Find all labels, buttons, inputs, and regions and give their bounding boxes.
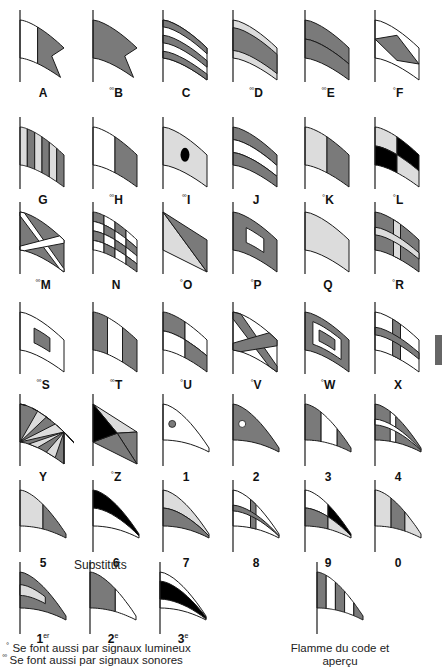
- flag-3-icon: [297, 392, 359, 472]
- flag-X-icon: [367, 300, 429, 380]
- signal-marker: °: [180, 278, 182, 287]
- code-pennant-caption: Flamme du code et aperçu: [270, 642, 410, 668]
- flag-P-icon: [225, 200, 287, 280]
- flag-label: Q: [297, 278, 359, 292]
- flag-F: °F: [367, 8, 429, 88]
- flag-1-icon: [155, 392, 217, 472]
- flag-sub1-icon: [12, 560, 74, 640]
- flag-E: °°E: [297, 8, 359, 88]
- flag-J-icon: [225, 115, 287, 195]
- flag-8: 8: [225, 478, 287, 558]
- flag-label: °F: [367, 86, 429, 100]
- legend-sonores-text: Se font aussi par signaux sonores: [10, 654, 183, 666]
- flag-label: °°S: [12, 378, 74, 392]
- flag-2-icon: [225, 392, 287, 472]
- flag-B: °°B: [85, 8, 147, 88]
- flag-label: °O: [155, 278, 217, 292]
- flag-X: X: [367, 300, 429, 380]
- flag-letter: B: [114, 86, 123, 100]
- flag-4: 4: [367, 392, 429, 472]
- flag-label: C: [155, 86, 217, 100]
- flag-V: °V: [225, 300, 287, 380]
- flag-L: °L: [367, 115, 429, 195]
- flag-letter: 8: [253, 556, 260, 570]
- flag-label: 8: [225, 556, 287, 570]
- flag-label: °P: [225, 278, 287, 292]
- flag-T-icon: [85, 300, 147, 380]
- flag-G-icon: [12, 115, 74, 195]
- flag-letter: E: [327, 86, 335, 100]
- ordinal-suffix: e: [114, 632, 118, 639]
- flag-P: °P: [225, 200, 287, 280]
- flag-2: 2: [225, 392, 287, 472]
- flag-5: 5: [12, 478, 74, 558]
- signal-marker: °: [321, 378, 323, 387]
- flag-H: °°H: [85, 115, 147, 195]
- flag-L-icon: [367, 115, 429, 195]
- signal-marker: °: [250, 378, 252, 387]
- flag-letter: D: [254, 86, 263, 100]
- flag-N-icon: [85, 200, 147, 280]
- flag-M-icon: [12, 200, 74, 280]
- flag-A-icon: [12, 8, 74, 88]
- flag-C: C: [155, 8, 217, 88]
- flag-letter: 0: [395, 556, 402, 570]
- flag-Q-icon: [297, 200, 359, 280]
- flag-sub2-icon: [82, 560, 144, 640]
- flag-N: N: [85, 200, 147, 280]
- flag-sub1: 1er: [12, 560, 74, 640]
- side-tab-marker: [435, 335, 442, 365]
- substituts-title: Substituts: [74, 558, 127, 572]
- flag-letter: N: [112, 278, 121, 292]
- flag-letter: W: [324, 378, 335, 392]
- flag-7: 7: [155, 478, 217, 558]
- signal-marker: °°: [35, 278, 39, 287]
- flag-letter: A: [39, 86, 48, 100]
- flag-D-icon: [225, 8, 287, 88]
- flag-sub3: 3e: [152, 560, 214, 640]
- flag-1: 1: [155, 392, 217, 472]
- legend-sonores: °° Se font aussi par signaux sonores: [2, 653, 183, 666]
- flag-letter: R: [395, 278, 404, 292]
- signal-marker: °°: [110, 378, 114, 387]
- legend-lumineux-marker: °: [6, 641, 9, 650]
- flag-9-icon: [297, 478, 359, 558]
- flag-3: 3: [297, 392, 359, 472]
- flag-sub3-icon: [152, 560, 214, 640]
- flag-K-icon: [297, 115, 359, 195]
- flag-F-icon: [367, 8, 429, 88]
- ordinal-suffix: er: [43, 632, 49, 639]
- code-pennant-caption-line2: aperçu: [270, 655, 410, 668]
- flag-I: °°I: [155, 115, 217, 195]
- flag-U: °U: [155, 300, 217, 380]
- flag-W: °W: [297, 300, 359, 380]
- ordinal-suffix: e: [184, 632, 188, 639]
- signal-marker: °: [392, 278, 394, 287]
- flag-U-icon: [155, 300, 217, 380]
- flag-0: 0: [367, 478, 429, 558]
- signal-marker: °°: [321, 86, 325, 95]
- signal-marker: °°: [249, 86, 253, 95]
- code-pennant-caption-line1: Flamme du code et: [270, 642, 410, 655]
- flag-letter: U: [183, 378, 192, 392]
- flag-B-icon: [85, 8, 147, 88]
- flag-code: [300, 560, 380, 640]
- flag-letter: V: [254, 378, 262, 392]
- flag-O: °O: [155, 200, 217, 280]
- flag-letter: X: [394, 378, 402, 392]
- flag-6-icon: [85, 478, 147, 558]
- flag-M: °°M: [12, 200, 74, 280]
- flag-Z: °Z: [85, 392, 147, 472]
- flag-letter: C: [182, 86, 191, 100]
- flag-letter: T: [115, 378, 122, 392]
- flag-Y-icon: [12, 392, 74, 472]
- flag-7-icon: [155, 478, 217, 558]
- flag-Y: Y: [12, 392, 74, 472]
- flag-label: °R: [367, 278, 429, 292]
- flag-label: °U: [155, 378, 217, 392]
- flag-K: °K: [297, 115, 359, 195]
- flag-label: °°D: [225, 86, 287, 100]
- flag-label: °V: [225, 378, 287, 392]
- flag-O-icon: [155, 200, 217, 280]
- signal-marker: °: [180, 378, 182, 387]
